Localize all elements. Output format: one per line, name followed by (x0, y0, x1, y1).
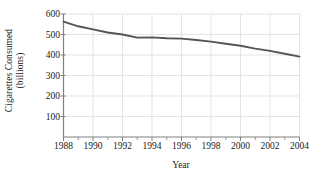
plot-area (0, 0, 318, 183)
chart-figure: Cigarettes Consumed (billions) 100200300… (0, 0, 318, 183)
